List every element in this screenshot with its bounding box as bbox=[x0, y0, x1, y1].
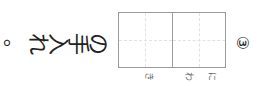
answer-boxes[interactable] bbox=[118, 12, 226, 68]
furigana-ki: き bbox=[143, 71, 156, 83]
question-number: ③ bbox=[232, 33, 252, 53]
sentence-char: れ bbox=[27, 33, 49, 53]
furigana-wa: わ bbox=[183, 71, 196, 83]
answer-box-2[interactable] bbox=[172, 13, 226, 67]
furigana-ni: に bbox=[206, 71, 219, 83]
sentence-period: 。 bbox=[1, 39, 23, 59]
sentence-text: の 手 入 れ 。 bbox=[14, 28, 108, 58]
answer-box-1[interactable] bbox=[119, 13, 172, 67]
